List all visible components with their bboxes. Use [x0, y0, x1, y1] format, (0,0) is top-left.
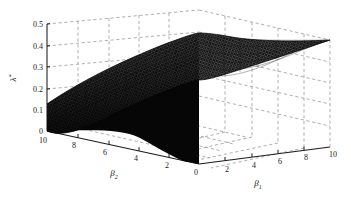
- z-ticklabel: 0.4: [33, 42, 43, 51]
- figure-3d-surface-plot: 0.5 0.4 0.3 0.2 0.1 0 10 8 6 4 2 0 2 4 6…: [0, 0, 351, 203]
- beta2-ticklabel: 6: [103, 148, 107, 157]
- svg-text:λ*: λ*: [8, 75, 18, 83]
- beta2-ticklabel: 4: [134, 154, 138, 163]
- beta1-axis-label-sub: 1: [259, 184, 262, 190]
- z-ticklabel: 0.1: [33, 106, 43, 115]
- beta2-ticklabel: 10: [39, 136, 47, 145]
- beta1-axis-label: β1: [253, 178, 261, 190]
- beta1-axis-ticks: [225, 147, 304, 161]
- z-axis-ticklabels: 0.5 0.4 0.3 0.2 0.1 0: [33, 20, 43, 136]
- beta2-axis-label-sub: 2: [115, 174, 118, 180]
- z-axis-label-sup: *: [8, 75, 14, 78]
- z-ticklabel: 0: [39, 127, 43, 136]
- beta1-ticklabel: 4: [252, 161, 256, 170]
- surface-lambda-star: [47, 33, 330, 164]
- beta2-axis-label: β2: [109, 168, 117, 180]
- z-ticklabel: 0.5: [33, 20, 43, 29]
- beta2-ticklabel-origin: 0: [194, 168, 198, 177]
- z-axis-label: λ*: [8, 75, 18, 83]
- beta1-ticklabel: 10: [329, 150, 337, 159]
- beta1-ticklabel: 6: [278, 157, 282, 166]
- beta1-ticklabel: 8: [304, 153, 308, 162]
- plot-canvas: 0.5 0.4 0.3 0.2 0.1 0 10 8 6 4 2 0 2 4 6…: [0, 0, 351, 203]
- beta2-ticklabel: 2: [165, 161, 169, 170]
- beta1-ticklabel: 2: [225, 165, 229, 174]
- z-ticklabel: 0.3: [33, 63, 43, 72]
- beta2-ticklabel: 8: [72, 141, 76, 150]
- z-ticklabel: 0.2: [33, 85, 43, 94]
